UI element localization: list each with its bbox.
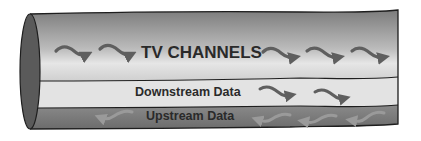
upstream-data-label: Upstream Data bbox=[146, 109, 235, 123]
tv-channels-label: TV CHANNELS bbox=[141, 43, 262, 62]
cable-diagram: TV CHANNELS Downstream Data Upstream Dat… bbox=[0, 0, 421, 141]
cable-end bbox=[20, 14, 40, 129]
downstream-data-label: Downstream Data bbox=[135, 85, 242, 99]
